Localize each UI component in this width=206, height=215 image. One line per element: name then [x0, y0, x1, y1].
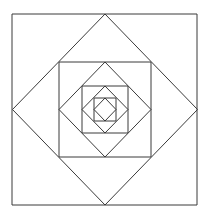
square-2	[59, 62, 151, 157]
diamond-7	[94, 98, 116, 121]
diamond-3	[59, 62, 151, 157]
square-6	[94, 98, 116, 121]
diamond-1	[13, 14, 198, 205]
square-4	[82, 86, 128, 133]
nested-squares-diagram	[0, 0, 206, 215]
square-0	[12, 14, 197, 205]
diamond-5	[82, 86, 128, 133]
